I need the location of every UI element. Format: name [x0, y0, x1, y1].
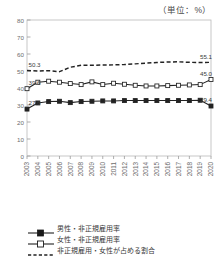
y-axis-tick-label: 60	[17, 51, 24, 58]
series-marker	[187, 83, 191, 87]
series-marker	[122, 99, 126, 103]
x-axis-tick-label: 2007	[67, 162, 74, 177]
x-axis-tick-label: 2005	[45, 162, 52, 177]
series-marker	[209, 78, 213, 82]
y-axis-tick-label: 80	[17, 17, 24, 24]
x-axis-tick-label: 2006	[56, 162, 63, 177]
series-start-value-label: 27.6	[29, 99, 42, 106]
x-axis-tick-label: 2011	[110, 162, 117, 176]
x-axis-tick-label: 2020	[207, 162, 214, 177]
y-axis-tick-label: 50	[17, 68, 24, 75]
series-marker	[144, 99, 148, 103]
series-marker	[133, 83, 137, 87]
y-axis-tick-label: 20	[17, 119, 24, 126]
series-marker	[57, 99, 61, 103]
y-axis-tick-label: 30	[17, 102, 24, 109]
series-marker	[112, 99, 116, 103]
legend-item-male: 男性・非正規雇用率	[28, 224, 217, 234]
series-line	[27, 62, 211, 72]
series-marker	[79, 83, 83, 87]
series-start-value-label: 50.3	[29, 61, 42, 68]
series-end-value-label: 45.0	[200, 70, 213, 77]
series-marker	[101, 83, 105, 87]
y-axis-tick-label: 40	[17, 85, 24, 92]
series-line	[27, 80, 211, 89]
x-axis-tick-label: 2004	[34, 162, 41, 177]
series-marker	[68, 82, 72, 86]
x-axis-tick-label: 2015	[153, 162, 160, 177]
series-marker	[155, 84, 159, 88]
series-end-value-label: 29.4	[200, 96, 213, 103]
x-axis-tick-label: 2010	[99, 162, 106, 177]
legend-label-female-share: 非正規雇用・女性が占める割合	[57, 246, 155, 256]
x-axis-tick-label: 2013	[132, 162, 139, 177]
series-marker	[90, 80, 94, 84]
x-axis-tick-label: 2014	[142, 162, 149, 177]
legend-item-female: 女性・非正規雇用率	[28, 235, 217, 245]
series-marker	[209, 104, 213, 108]
x-axis-tick-label: 2017	[175, 162, 182, 177]
series-marker	[155, 99, 159, 103]
series-marker	[25, 107, 29, 111]
y-axis-tick-label: 70	[17, 34, 24, 41]
series-marker	[112, 81, 116, 85]
x-axis-tick-label: 2003	[23, 162, 30, 177]
x-axis-tick-label: 2016	[164, 162, 171, 177]
unit-note: （単位：%）	[158, 3, 211, 15]
series-marker	[79, 100, 83, 104]
series-marker	[90, 99, 94, 103]
y-axis-tick-label: 10	[17, 136, 24, 143]
legend-label-male: 男性・非正規雇用率	[57, 224, 120, 234]
series-marker	[166, 84, 170, 88]
series-marker	[166, 99, 170, 103]
legend-key-filled-square-icon	[28, 224, 54, 234]
series-end-value-label: 55.1	[200, 53, 213, 60]
x-axis-tick-label: 2008	[77, 162, 84, 177]
chart-plot-area: 0102030405060708020032004200520062007200…	[0, 16, 217, 198]
x-axis-tick-label: 2012	[121, 162, 128, 177]
series-marker	[177, 83, 181, 87]
series-marker	[47, 100, 51, 104]
series-marker	[144, 84, 148, 88]
series-marker	[57, 80, 61, 84]
series-marker	[68, 101, 72, 105]
series-marker	[122, 82, 126, 86]
series-start-value-label: 39.6	[29, 79, 42, 86]
series-marker	[101, 99, 105, 103]
series-marker	[177, 99, 181, 103]
series-marker	[198, 83, 202, 87]
legend-item-female-share: 非正規雇用・女性が占める割合	[28, 246, 217, 256]
legend-key-open-square-icon	[28, 235, 54, 245]
chart-page: （単位：%） 010203040506070802003200420052006…	[0, 0, 217, 260]
legend-key-dashed-line-icon	[28, 246, 54, 256]
y-axis-tick-label: 0	[21, 153, 25, 160]
legend-label-female: 女性・非正規雇用率	[57, 235, 120, 245]
series-marker	[47, 79, 51, 83]
x-axis-tick-label: 2018	[186, 162, 193, 177]
x-axis-tick-label: 2019	[196, 162, 203, 177]
series-marker	[25, 87, 29, 91]
line-chart: 0102030405060708020032004200520062007200…	[0, 16, 217, 198]
chart-legend: 男性・非正規雇用率 女性・非正規雇用率 非正規雇用・女性が占める割合	[28, 224, 217, 257]
series-marker	[133, 99, 137, 103]
series-line	[27, 100, 211, 109]
series-marker	[187, 99, 191, 103]
x-axis-tick-label: 2009	[88, 162, 95, 177]
